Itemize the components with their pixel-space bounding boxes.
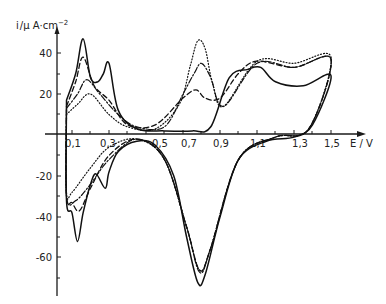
y-axis-label: i/µ A·cm−2: [16, 19, 68, 31]
curve-solid: [66, 39, 331, 286]
x-tick-0.7: 0,7: [181, 138, 197, 149]
y-tick-minus60: -60: [36, 252, 52, 263]
curves: [66, 39, 331, 286]
cyclic-voltammogram: 40 20 -20 -40 -60 0,1 0,3 0,5 0,7 0,9 1,…: [0, 0, 386, 304]
x-tick-0.1: 0,1: [65, 138, 81, 149]
y-axis-label-unit: /µ A·cm: [20, 20, 58, 31]
y-tick-labels: 40 20 -20 -40 -60: [36, 48, 52, 263]
x-tick-labels: 0,1 0,3 0,5 0,7 0,9 1,1 1,3 1,5: [65, 138, 340, 149]
y-tick-minus40: -40: [36, 212, 52, 223]
y-axis-label-exponent: −2: [58, 19, 68, 27]
curve-dash-dot: [66, 56, 331, 273]
y-axis-label-symbol: i: [16, 20, 19, 31]
x-tick-1.5: 1,5: [324, 138, 340, 149]
x-tick-0.9: 0,9: [213, 138, 229, 149]
x-axis-arrow-icon: [357, 131, 366, 137]
y-tick-minus20: -20: [36, 171, 52, 182]
y-tick-40: 40: [39, 48, 52, 59]
x-tick-1.3: 1,3: [292, 138, 308, 149]
x-axis-label: E / V: [350, 138, 373, 149]
curve-dotted: [66, 40, 331, 271]
y-tick-20: 20: [39, 89, 52, 100]
